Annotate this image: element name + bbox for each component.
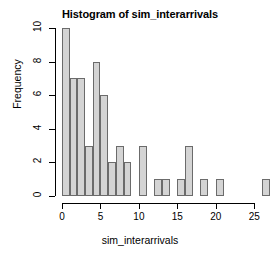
histogram-bar (62, 28, 70, 196)
y-axis-tick-label: 8 (32, 49, 43, 71)
histogram-bar (200, 179, 208, 196)
plot-area (62, 28, 262, 196)
x-axis-tick (177, 203, 178, 209)
histogram-bar (154, 179, 162, 196)
y-axis-tick-label: 10 (32, 16, 43, 38)
y-axis-tick-label: 6 (32, 83, 43, 105)
x-axis-tick-label: 25 (244, 211, 264, 222)
x-axis-tick-label: 0 (52, 211, 72, 222)
histogram-bar (70, 78, 78, 196)
x-axis-tick (62, 203, 63, 209)
y-axis-tick-label: 0 (32, 184, 43, 206)
histogram-bar (100, 95, 108, 196)
histogram-bar (93, 62, 101, 196)
x-axis-tick (254, 203, 255, 209)
histogram-bar (139, 146, 147, 196)
histogram-bar (262, 179, 270, 196)
histogram-bar (162, 179, 170, 196)
y-axis-tick (49, 162, 55, 163)
histogram-bar (85, 146, 93, 196)
y-axis-tick (49, 129, 55, 130)
y-axis-tick (49, 28, 55, 29)
y-axis-tick (49, 62, 55, 63)
histogram-chart: Histogram of sim_interarrivals Frequency… (0, 0, 280, 254)
histogram-bar (77, 78, 85, 196)
x-axis-tick (100, 203, 101, 209)
histogram-bar (185, 146, 193, 196)
y-axis-tick (49, 196, 55, 197)
y-axis-line (55, 28, 56, 196)
histogram-bar (124, 162, 132, 196)
x-axis-line (62, 203, 254, 204)
x-axis-tick-label: 5 (90, 211, 110, 222)
histogram-bar (108, 162, 116, 196)
x-axis-tick (216, 203, 217, 209)
x-axis-label: sim_interarrivals (0, 234, 280, 246)
y-axis-tick-label: 2 (32, 150, 43, 172)
y-axis-tick-label: 4 (32, 116, 43, 138)
y-axis-tick (49, 95, 55, 96)
y-axis-label: Frequency (11, 39, 23, 129)
histogram-bar (177, 179, 185, 196)
x-axis-tick-label: 15 (167, 211, 187, 222)
x-axis-tick-label: 10 (129, 211, 149, 222)
x-axis-tick (139, 203, 140, 209)
histogram-bar (116, 146, 124, 196)
x-axis-tick-label: 20 (206, 211, 226, 222)
histogram-bar (216, 179, 224, 196)
